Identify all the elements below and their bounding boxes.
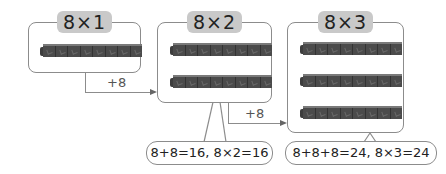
cube-bar: [40, 44, 142, 57]
equation-bubble-8x3: 8+8+8=24, 8×3=24: [285, 141, 437, 165]
cube-bar: [300, 42, 402, 55]
cube-bar: [300, 74, 402, 87]
panel-8x2-label: 8×2: [187, 11, 242, 33]
connector-line: [85, 92, 152, 93]
plus-eight-label: +8: [107, 75, 126, 90]
connector-line: [85, 73, 86, 92]
panel-8x3-label: 8×3: [318, 11, 373, 33]
panel-8x1-label: 8×1: [57, 11, 112, 33]
bubble-pointer: [200, 102, 230, 143]
arrow-right-icon: [280, 120, 287, 126]
cube-bar: [300, 106, 402, 119]
cube-bar: [170, 43, 272, 56]
cube-bar: [170, 75, 272, 88]
connector-line: [228, 123, 282, 124]
arrow-right-icon: [150, 89, 157, 95]
equation-bubble-8x2: 8+8=16, 8×2=16: [146, 141, 273, 165]
panel-8x2: [157, 22, 272, 103]
plus-eight-label: +8: [245, 106, 264, 121]
